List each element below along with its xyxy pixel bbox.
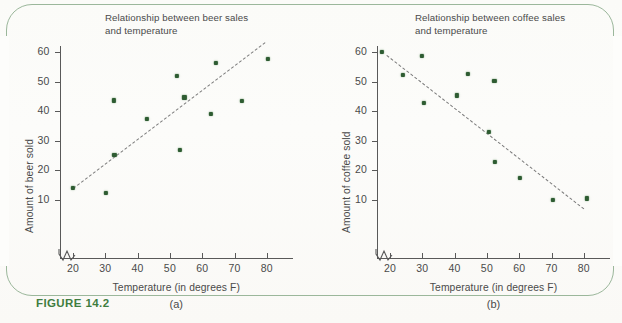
panel-label: (b) xyxy=(367,298,620,310)
y-axis-tick xyxy=(55,170,60,171)
x-axis-tick xyxy=(552,253,553,258)
x-axis-tick xyxy=(138,253,139,258)
x-axis-line xyxy=(60,258,294,259)
data-point xyxy=(104,191,108,195)
data-point xyxy=(492,79,496,83)
y-axis-tick xyxy=(372,170,377,171)
x-axis-tick-label: 30 xyxy=(94,262,116,274)
data-point xyxy=(493,160,497,164)
x-axis-tick xyxy=(170,253,171,258)
x-axis-tick xyxy=(519,253,520,258)
data-point xyxy=(112,153,116,157)
data-point xyxy=(182,95,186,99)
chart-coffee-sales: Relationship between coffee sales and te… xyxy=(311,0,622,300)
y-axis-tick xyxy=(55,52,60,53)
y-axis-tick-label: 40 xyxy=(345,104,367,116)
x-axis-tick xyxy=(267,253,268,258)
chart-beer-sales: Relationship between beer sales and temp… xyxy=(0,0,311,300)
y-axis-title: Amount of beer sold xyxy=(24,139,35,233)
y-axis-tick xyxy=(372,111,377,112)
x-axis-tick-label: 40 xyxy=(444,262,466,274)
figure-caption: FIGURE 14.2 xyxy=(36,297,109,309)
y-axis-tick xyxy=(372,82,377,83)
data-point xyxy=(178,148,182,152)
chart-title-beer: Relationship between beer sales and temp… xyxy=(105,12,305,37)
x-axis-title: Temperature (in degrees F) xyxy=(50,282,304,293)
x-axis-tick xyxy=(202,253,203,258)
trendline xyxy=(73,42,266,189)
y-axis-tick xyxy=(372,141,377,142)
y-axis-tick-label: 40 xyxy=(28,104,50,116)
data-point xyxy=(401,73,405,77)
data-point xyxy=(112,98,116,102)
y-axis-title: Amount of coffee sold xyxy=(341,131,352,233)
data-point xyxy=(585,196,589,200)
y-axis-tick xyxy=(372,52,377,53)
y-axis-tick xyxy=(55,111,60,112)
x-axis-tick xyxy=(455,253,456,258)
x-axis-tick xyxy=(390,253,391,258)
x-axis-line xyxy=(377,258,610,259)
x-axis-tick xyxy=(73,253,74,258)
x-axis-tick-label: 20 xyxy=(379,262,401,274)
x-axis-tick-label: 80 xyxy=(256,262,278,274)
y-axis-tick-label: 60 xyxy=(345,45,367,57)
data-point xyxy=(71,186,75,190)
data-point xyxy=(145,117,149,121)
data-point xyxy=(175,74,179,78)
x-axis-tick-label: 60 xyxy=(191,262,213,274)
x-axis-tick-label: 70 xyxy=(224,262,246,274)
y-axis-tick xyxy=(55,141,60,142)
trendline xyxy=(386,55,584,209)
y-axis-line xyxy=(377,46,378,258)
data-point xyxy=(455,93,459,97)
data-point xyxy=(518,176,522,180)
y-axis-line xyxy=(60,46,61,258)
scanned-page: Relationship between beer sales and temp… xyxy=(0,0,622,323)
x-axis-tick-label: 20 xyxy=(62,262,84,274)
data-point xyxy=(266,57,270,61)
x-axis-tick-label: 60 xyxy=(508,262,530,274)
data-point xyxy=(420,53,424,57)
x-axis-tick xyxy=(584,253,585,258)
x-axis-tick xyxy=(487,253,488,258)
data-point xyxy=(214,61,218,65)
data-point xyxy=(551,198,555,202)
y-axis-tick xyxy=(55,200,60,201)
data-point xyxy=(422,101,426,105)
x-axis-tick xyxy=(235,253,236,258)
x-axis-tick-label: 80 xyxy=(573,262,595,274)
x-axis-title: Temperature (in degrees F) xyxy=(367,282,620,293)
x-axis-tick-label: 70 xyxy=(541,262,563,274)
data-point xyxy=(465,72,469,76)
y-axis-tick-label: 50 xyxy=(28,75,50,87)
y-axis-tick-label: 50 xyxy=(345,75,367,87)
x-axis-tick-label: 40 xyxy=(127,262,149,274)
y-axis-tick-label: 60 xyxy=(28,45,50,57)
x-axis-tick-label: 50 xyxy=(159,262,181,274)
chart-title-coffee: Relationship between coffee sales and te… xyxy=(415,12,615,37)
x-axis-tick xyxy=(422,253,423,258)
y-axis-tick xyxy=(55,82,60,83)
data-point xyxy=(209,112,213,116)
x-axis-tick-label: 30 xyxy=(411,262,433,274)
x-axis-tick xyxy=(105,253,106,258)
data-point xyxy=(240,99,244,103)
data-point xyxy=(487,130,491,134)
y-axis-tick xyxy=(372,200,377,201)
data-point xyxy=(380,50,384,54)
x-axis-tick-label: 50 xyxy=(476,262,498,274)
